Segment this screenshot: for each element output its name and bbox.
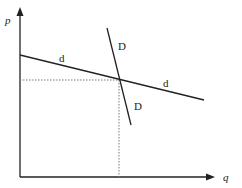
curve-D-label-top: D	[118, 40, 126, 52]
curve-d-label-left: d	[59, 52, 65, 64]
curve-D-label-bottom: D	[134, 100, 142, 112]
x-axis-label: q	[223, 171, 229, 183]
diagram-canvas: p q d d D D	[0, 0, 242, 188]
x-axis-arrow-icon	[206, 174, 215, 181]
kinked-demand-diagram: p q d d D D	[0, 0, 242, 188]
curve-d	[20, 55, 204, 100]
curve-d-label-right: d	[163, 77, 169, 89]
y-axis-label: p	[4, 14, 11, 26]
y-axis-arrow-icon	[17, 7, 24, 16]
